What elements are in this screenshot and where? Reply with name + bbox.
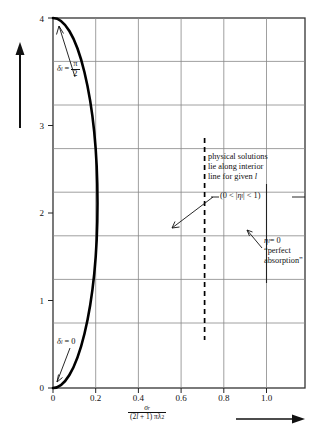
y-tick-label: 4 (40, 14, 45, 24)
delta-zero-rest: = 0 (65, 337, 76, 346)
x-tick-marks (53, 388, 267, 393)
annotation-perfect-absorption: ηl= 0 “perfect absorption” (264, 236, 303, 265)
y-tick-label: 0 (40, 383, 45, 393)
fraction-numerator: π (71, 60, 79, 69)
denominator-suffix: + 1) πƛ (138, 412, 161, 421)
annotation-physical-solutions: physical solutions lie along interior li… (208, 152, 268, 181)
physical-solutions-line2: lie along interior (208, 162, 268, 172)
x-axis-label-numerator: σr (128, 404, 166, 412)
pi-over-two-fraction: π 2 (71, 60, 79, 79)
y-tick-marks (48, 18, 53, 388)
x-tick-label: 0 (51, 393, 56, 403)
sigma-subscript: r (148, 405, 150, 411)
perfect-absorption-line1: ηl= 0 (264, 236, 303, 246)
x-axis-arrow (236, 415, 305, 424)
x-tick-labels: 0 0.2 0.4 0.6 0.8 1.0 (51, 393, 273, 403)
eta-equals-zero: = 0 (270, 236, 281, 245)
delta-subscript: l (61, 66, 63, 72)
angular-momentum-l: l (255, 172, 257, 181)
x-axis-label-denominator: (2l + 1) πƛ2 (128, 412, 166, 421)
annotation-delta-zero: δl = 0 (57, 337, 76, 347)
annotation-eta-condition: (0 < |ηl| < 1) (220, 191, 260, 201)
plot-frame (53, 18, 305, 388)
condition-suffix: | < 1) (243, 191, 260, 200)
x-tick-label: 0.8 (218, 393, 230, 403)
physical-solutions-line3: line for given l (208, 172, 268, 182)
x-axis-label: σr (2l + 1) πƛ2 (128, 404, 166, 421)
y-tick-labels: 0 1 2 3 4 (40, 14, 45, 393)
condition-prefix: (0 < | (220, 191, 237, 200)
annotation-delta-pi-over-2: δl = π 2 (57, 60, 80, 79)
y-tick-label: 3 (40, 121, 45, 131)
fraction-denominator: 2 (71, 69, 79, 79)
denominator-exponent: 2 (161, 414, 164, 420)
x-tick-label: 0.6 (175, 393, 187, 403)
x-tick-label: 1.0 (261, 393, 273, 403)
perfect-absorption-line2: “perfect (264, 246, 303, 256)
unitarity-circle-plot: 0 0.2 0.4 0.6 0.8 1.0 0 1 2 3 4 (0, 0, 315, 443)
x-tick-label: 0.2 (90, 393, 101, 403)
perfect-absorption-line3: absorption” (264, 256, 303, 266)
x-axis-label-fraction: σr (2l + 1) πƛ2 (128, 404, 166, 421)
physical-solutions-line3-text: line for given (208, 172, 255, 181)
y-axis-arrow (16, 42, 25, 128)
delta-subscript: l (61, 339, 63, 345)
equals-sign: = (65, 64, 70, 73)
figure-container: 0 0.2 0.4 0.6 0.8 1.0 0 1 2 3 4 δl = π 2… (0, 0, 315, 443)
physical-solutions-line1: physical solutions (208, 152, 268, 162)
y-tick-label: 1 (40, 296, 45, 306)
y-tick-label: 2 (40, 208, 45, 218)
x-tick-label: 0.4 (133, 393, 145, 403)
